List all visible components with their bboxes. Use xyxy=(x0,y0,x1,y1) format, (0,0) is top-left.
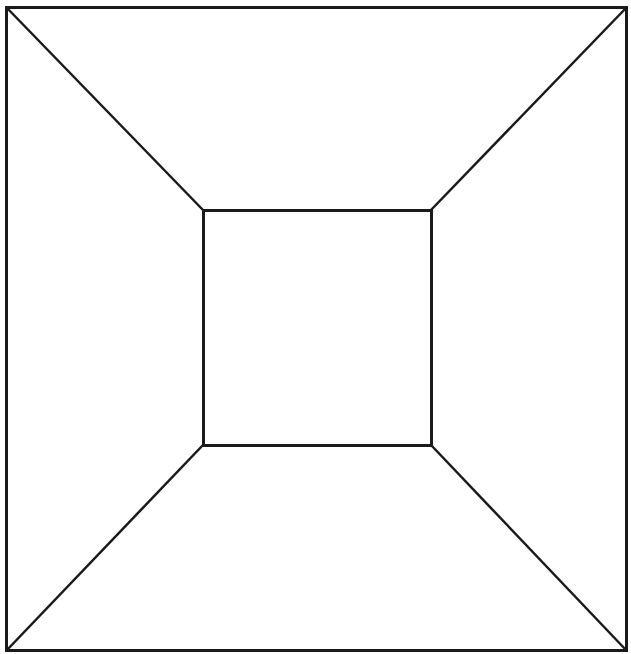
diagonal-bottom-right xyxy=(431,445,626,650)
diagonal-top-right xyxy=(431,8,626,210)
diagonal-top-left xyxy=(7,8,203,210)
inner-square xyxy=(204,211,432,446)
diagonal-bottom-left xyxy=(7,445,203,650)
perspective-squares-diagram xyxy=(0,0,631,654)
